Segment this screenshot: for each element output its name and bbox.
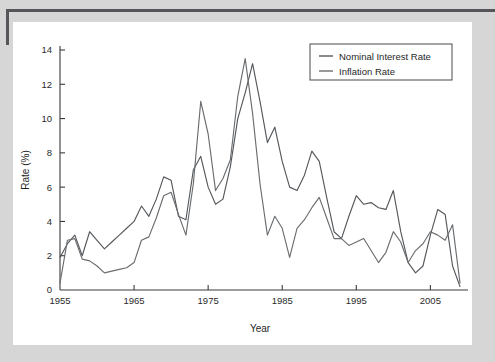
line-chart: 02468101214195519651975198519952005YearR… [13, 22, 472, 345]
y-tick-label: 12 [41, 79, 52, 90]
y-tick-label: 8 [47, 147, 52, 158]
y-tick-label: 10 [41, 113, 52, 124]
y-tick-label: 4 [47, 216, 52, 227]
x-tick-label: 1975 [198, 295, 219, 306]
series-line-2 [60, 59, 460, 284]
x-tick-label: 2005 [420, 295, 441, 306]
y-tick-label: 0 [47, 284, 52, 295]
y-tick-label: 6 [47, 182, 52, 193]
page-edge-top [6, 9, 495, 12]
legend-label-1: Nominal Interest Rate [339, 51, 431, 62]
x-axis-title: Year [250, 323, 271, 334]
x-tick-label: 1965 [124, 295, 145, 306]
series-line-1 [60, 64, 460, 287]
page-edge-left [6, 9, 9, 45]
x-tick-label: 1985 [272, 295, 293, 306]
legend-label-2: Inflation Rate [339, 66, 395, 77]
y-tick-label: 2 [47, 250, 52, 261]
figure-page: 02468101214195519651975198519952005YearR… [0, 0, 495, 362]
figure-card: 02468101214195519651975198519952005YearR… [13, 22, 472, 345]
chart-canvas: 02468101214195519651975198519952005YearR… [13, 22, 472, 345]
y-tick-label: 14 [41, 44, 52, 55]
y-axis-title: Rate (%) [20, 150, 31, 189]
x-tick-label: 1955 [49, 295, 70, 306]
x-tick-label: 1995 [346, 295, 367, 306]
